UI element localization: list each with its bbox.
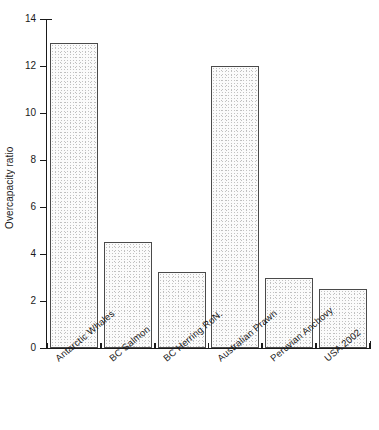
- y-axis-tick: [40, 301, 47, 302]
- y-axis-title: Overcapacity ratio: [2, 118, 18, 258]
- y-axis-tick-label: 12: [6, 61, 36, 71]
- y-axis-tick: [40, 66, 47, 67]
- y-axis-tick: [40, 160, 47, 161]
- y-axis-tick-label: 4: [6, 249, 36, 259]
- bar: [50, 43, 98, 349]
- y-axis-tick-label: 0: [6, 343, 36, 353]
- y-axis-tick-label: 10: [6, 108, 36, 118]
- y-axis-tick-label: 6: [6, 202, 36, 212]
- plot-area: [47, 19, 371, 348]
- y-axis-tick: [40, 207, 47, 208]
- y-axis-tick: [40, 254, 47, 255]
- y-axis-tick: [40, 348, 47, 349]
- bar: [211, 66, 259, 348]
- y-axis-tick-label: 8: [6, 155, 36, 165]
- bar-chart: Overcapacity ratio 02468101214 Antarctic…: [0, 0, 379, 430]
- y-axis-tick-label: 2: [6, 296, 36, 306]
- y-axis-tick-label: 14: [6, 14, 36, 24]
- y-axis-tick: [40, 19, 47, 20]
- y-axis-tick: [40, 113, 47, 114]
